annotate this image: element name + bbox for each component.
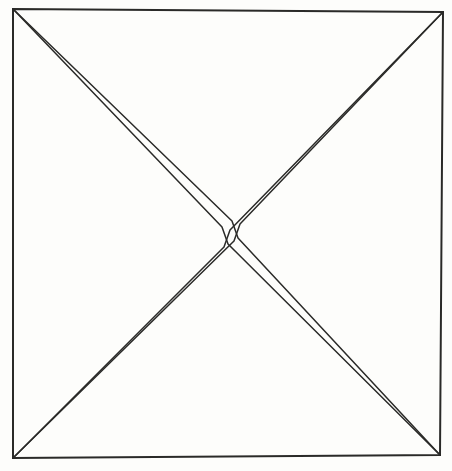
figure-canvas <box>0 0 452 471</box>
square-diagonals-drawing <box>0 0 452 471</box>
